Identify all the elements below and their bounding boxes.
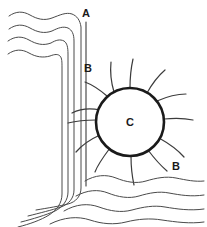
ray-bottom-right: [148, 150, 167, 171]
ray-lower-right: [159, 138, 184, 157]
wave-line-top-4: [8, 50, 62, 227]
wave-line-top-3: [8, 37, 68, 222]
top-wave-group: [8, 12, 81, 227]
bottom-wave-group: [50, 176, 204, 224]
ray-upper-right: [157, 94, 186, 101]
wave-line-bottom-4: [50, 218, 204, 224]
diagram-canvas: A B B C: [0, 0, 207, 227]
ray-upper-left-1: [85, 82, 107, 96]
ray-bottom-center: [131, 156, 134, 185]
ray-right: [164, 118, 193, 120]
ray-top-left: [111, 62, 114, 92]
ray-left: [68, 120, 96, 123]
wave-line-top-2: [9, 25, 74, 216]
label-b-upper: B: [84, 62, 92, 74]
wave-line-top-1: [9, 12, 81, 210]
wave-line-bottom-2: [76, 191, 204, 198]
wave-line-bottom-1: [85, 176, 204, 183]
ray-top-center: [130, 59, 133, 88]
ray-lower-left-2: [95, 148, 110, 172]
ray-top-right: [147, 70, 165, 93]
label-c: C: [126, 116, 134, 128]
wave-line-bottom-3: [64, 205, 204, 212]
ray-lower-left-1: [76, 135, 100, 152]
label-b-lower: B: [172, 160, 180, 172]
label-a: A: [82, 7, 90, 19]
figure-container: A B B C: [0, 0, 207, 227]
